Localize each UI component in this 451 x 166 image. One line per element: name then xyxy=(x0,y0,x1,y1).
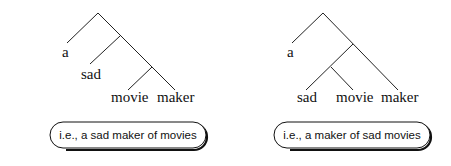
leaf-maker: maker xyxy=(157,89,194,105)
leaf-sad: sad xyxy=(81,66,101,82)
edge-root-a xyxy=(67,13,98,43)
leaf-a: a xyxy=(62,44,69,60)
right-tree: a sad movie maker i.e., a maker of sad m… xyxy=(274,13,431,150)
edge-node-movie xyxy=(128,67,152,90)
edge-node-movie xyxy=(331,67,353,90)
leaf-a: a xyxy=(287,44,294,60)
tree-diagram: a sad movie maker i.e., a sad maker of m… xyxy=(0,0,451,166)
gloss-capsule-left: i.e., a sad maker of movies xyxy=(50,122,207,150)
gloss-capsule-right: i.e., a maker of sad movies xyxy=(274,122,431,150)
edge-root-spine xyxy=(98,13,175,90)
edge-root-spine xyxy=(323,13,398,90)
gloss-text-right: i.e., a maker of sad movies xyxy=(283,129,421,141)
leaf-movie: movie xyxy=(336,89,374,105)
gloss-text-left: i.e., a sad maker of movies xyxy=(59,129,197,141)
leaf-movie: movie xyxy=(111,89,149,105)
edge-root-a xyxy=(292,13,323,43)
leaf-maker: maker xyxy=(381,89,418,105)
edge-node-sad xyxy=(90,36,120,64)
left-tree: a sad movie maker i.e., a sad maker of m… xyxy=(50,13,207,150)
leaf-sad: sad xyxy=(297,89,317,105)
